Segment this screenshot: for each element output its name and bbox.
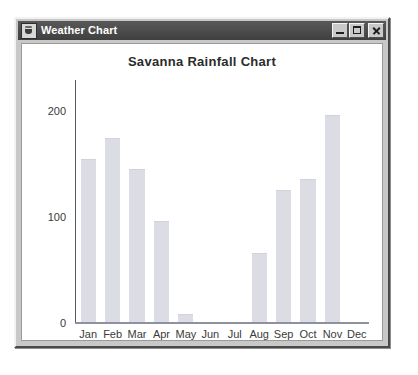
x-axis xyxy=(75,322,369,324)
x-tick-label: Jun xyxy=(198,328,222,340)
bar-slot xyxy=(247,80,271,322)
bar-slot xyxy=(149,80,173,322)
bar-feb xyxy=(105,138,120,322)
chart-title: Savanna Rainfall Chart xyxy=(22,54,382,69)
bar-slot xyxy=(198,80,222,322)
plot-area: 0100200 xyxy=(75,80,369,324)
bar-may xyxy=(178,314,193,322)
bar-oct xyxy=(300,179,315,322)
bar-slot xyxy=(296,80,320,322)
x-tick-label: Dec xyxy=(345,328,369,340)
bar-nov xyxy=(325,115,340,322)
bar-aug xyxy=(252,253,267,322)
x-tick-label: Mar xyxy=(125,328,149,340)
maximize-icon[interactable] xyxy=(349,23,365,38)
bar-slot xyxy=(345,80,369,322)
x-tick-label: Jul xyxy=(223,328,247,340)
bar-series xyxy=(76,80,369,322)
x-tick-label: Feb xyxy=(100,328,124,340)
bar-slot xyxy=(223,80,247,322)
y-tick-label: 200 xyxy=(48,105,66,117)
x-tick-label: May xyxy=(174,328,198,340)
x-axis-tick-labels: JanFebMarAprMayJunJulAugSepOctNovDec xyxy=(76,328,369,340)
bar-slot xyxy=(271,80,295,322)
close-icon[interactable] xyxy=(368,23,384,38)
y-tick-label: 100 xyxy=(48,211,66,223)
x-tick-label: Sep xyxy=(271,328,295,340)
application-window: Weather Chart Savanna Rainfall Chart 010… xyxy=(14,17,390,348)
java-cup-icon xyxy=(21,23,37,39)
x-tick-label: Nov xyxy=(320,328,344,340)
bar-slot xyxy=(320,80,344,322)
bar-slot xyxy=(76,80,100,322)
bar-apr xyxy=(154,221,169,322)
bar-slot xyxy=(100,80,124,322)
window-title: Weather Chart xyxy=(41,21,331,40)
x-tick-label: Aug xyxy=(247,328,271,340)
chart-panel: Savanna Rainfall Chart 0100200 JanFebMar… xyxy=(21,43,383,341)
window-title-bar[interactable]: Weather Chart xyxy=(18,21,386,40)
bar-jan xyxy=(81,159,96,322)
x-tick-label: Oct xyxy=(296,328,320,340)
x-tick-label: Jan xyxy=(76,328,100,340)
x-tick-label: Apr xyxy=(149,328,173,340)
bar-slot xyxy=(174,80,198,322)
y-tick-label: 0 xyxy=(60,317,66,329)
bar-mar xyxy=(129,169,144,322)
bar-slot xyxy=(125,80,149,322)
minimize-icon[interactable] xyxy=(332,23,348,38)
bar-sep xyxy=(276,190,291,322)
